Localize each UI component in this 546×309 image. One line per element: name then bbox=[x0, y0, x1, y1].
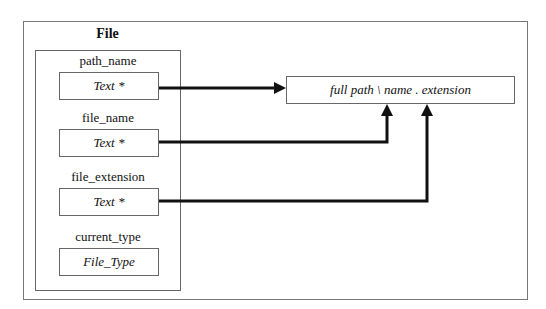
arrow-file-name bbox=[159, 114, 387, 142]
arrowhead-icon bbox=[421, 104, 433, 116]
arrowhead-icon bbox=[381, 104, 393, 116]
connector-arrows bbox=[0, 0, 546, 309]
arrowhead-icon bbox=[274, 82, 286, 94]
